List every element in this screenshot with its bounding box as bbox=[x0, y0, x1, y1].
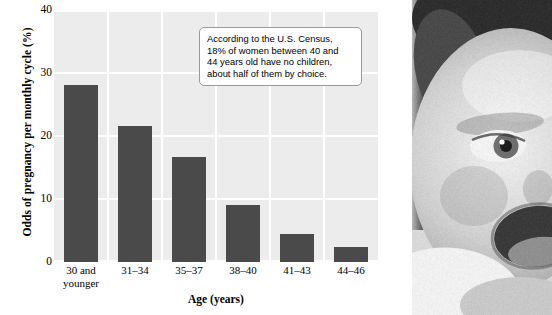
bar bbox=[64, 85, 97, 262]
x-tick-label-line: younger bbox=[54, 277, 108, 290]
annotation-line: According to the U.S. Census, bbox=[207, 33, 354, 45]
x-tick-label-line: 44–46 bbox=[324, 264, 378, 277]
x-tick-label: 30 andyounger bbox=[54, 264, 108, 289]
plot-area: According to the U.S. Census,18% of wome… bbox=[54, 10, 378, 262]
baby-photograph-canvas bbox=[412, 0, 552, 315]
annotation-line: 44 years old have no children, bbox=[207, 56, 354, 68]
y-tick-label: 0 bbox=[26, 256, 52, 268]
x-tick-label-line: 31–34 bbox=[108, 264, 162, 277]
bar bbox=[334, 247, 367, 262]
annotation-line: about half of them by choice. bbox=[207, 68, 354, 80]
y-axis-tick-labels: 010203040 bbox=[18, 0, 52, 275]
x-tick-label: 44–46 bbox=[324, 264, 378, 277]
y-tick-label: 10 bbox=[26, 193, 52, 205]
bar bbox=[118, 126, 151, 262]
figure-panel: Odds of pregnancy per monthly cycle (%) … bbox=[0, 0, 552, 315]
x-tick-label: 41–43 bbox=[270, 264, 324, 277]
bar bbox=[226, 205, 259, 262]
x-tick-label-line: 41–43 bbox=[270, 264, 324, 277]
x-tick-label-line: 35–37 bbox=[162, 264, 216, 277]
x-tick-label-line: 38–40 bbox=[216, 264, 270, 277]
y-tick-label: 20 bbox=[26, 130, 52, 142]
y-tick-label: 40 bbox=[26, 4, 52, 16]
census-annotation-callout: According to the U.S. Census,18% of wome… bbox=[199, 27, 362, 86]
bar bbox=[280, 234, 313, 262]
x-tick-label: 35–37 bbox=[162, 264, 216, 277]
x-axis-title: Age (years) bbox=[54, 293, 378, 305]
baby-photograph bbox=[412, 0, 552, 315]
y-tick-label: 30 bbox=[26, 67, 52, 79]
x-tick-label-line: 30 and bbox=[54, 264, 108, 277]
census-annotation-text: According to the U.S. Census,18% of wome… bbox=[207, 33, 354, 79]
annotation-line: 18% of women between 40 and bbox=[207, 45, 354, 57]
x-tick-label: 38–40 bbox=[216, 264, 270, 277]
bar bbox=[172, 157, 205, 262]
x-tick-label: 31–34 bbox=[108, 264, 162, 277]
